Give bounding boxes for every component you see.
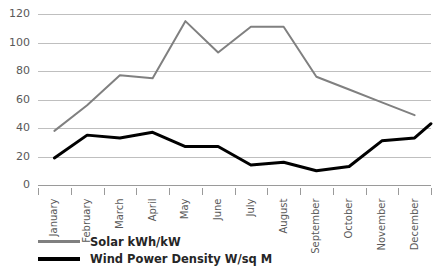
x-axis-label-march: March (114, 199, 125, 229)
legend-item-wind: Wind Power Density W/sq M (38, 250, 438, 267)
x-axis-label-may: May (179, 198, 190, 219)
line-chart: 020406080100120 JanuaryFebruaryMarchApri… (0, 0, 440, 273)
x-axis-label-july: July (245, 198, 256, 217)
y-axis-tick-labels: 020406080100120 (9, 7, 30, 191)
x-axis-label-august: August (278, 198, 289, 233)
legend-label-solar: Solar kWh/kW (90, 235, 181, 249)
legend-swatch-wind (38, 257, 80, 261)
legend-swatch-solar (38, 240, 80, 243)
y-axis-label-20: 20 (16, 150, 30, 163)
series-line-wind (54, 124, 431, 171)
y-axis-label-60: 60 (16, 93, 30, 106)
chart-legend: Solar kWh/kW Wind Power Density W/sq M (38, 233, 438, 267)
x-axis-label-june: June (212, 199, 223, 222)
x-axis-tick-marks (39, 188, 432, 195)
legend-label-wind: Wind Power Density W/sq M (90, 252, 272, 266)
x-axis-label-january: January (48, 198, 59, 237)
y-axis-label-120: 120 (9, 7, 30, 20)
series-line-solar (54, 21, 414, 131)
y-axis-label-100: 100 (9, 36, 30, 49)
y-axis-label-40: 40 (16, 121, 30, 134)
y-axis-label-0: 0 (23, 178, 30, 191)
legend-item-solar: Solar kWh/kW (38, 233, 438, 250)
x-axis-label-april: April (147, 199, 158, 222)
y-axis-label-80: 80 (16, 64, 30, 77)
